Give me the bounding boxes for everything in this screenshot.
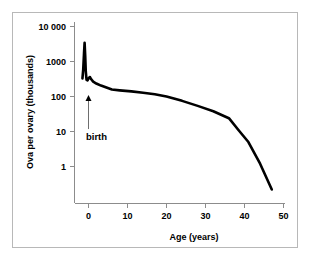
x-tick-label-30: 30: [200, 211, 210, 221]
y-tick-label-1: 1: [61, 162, 66, 172]
y-tick-label-10: 10: [56, 127, 66, 137]
y-axis-ticks: [70, 27, 75, 167]
x-tick-label-10: 10: [122, 211, 132, 221]
x-tick-label-20: 20: [161, 211, 171, 221]
x-axis-title: Age (years): [169, 232, 218, 242]
x-tick-label-40: 40: [239, 211, 249, 221]
x-tick-label-50: 50: [278, 211, 288, 221]
x-tick-label-0: 0: [86, 211, 91, 221]
x-axis-ticks: [89, 204, 284, 209]
y-tick-label-100: 100: [51, 92, 66, 102]
birth-annotation-label: birth: [86, 131, 107, 142]
y-axis-title: Ova per ovary (thousands): [25, 55, 35, 169]
chart-canvas: 10 000 1000 100 10 1 0 10 20 30 40 50 Ag…: [0, 0, 312, 260]
annotation-birth: birth: [86, 95, 108, 142]
y-tick-label-10000: 10 000: [38, 22, 66, 32]
figure-root: 10 000 1000 100 10 1 0 10 20 30 40 50 Ag…: [0, 0, 312, 260]
birth-arrow-head: [86, 95, 92, 101]
y-tick-label-1000: 1000: [46, 57, 66, 67]
data-series-line: [82, 43, 271, 190]
